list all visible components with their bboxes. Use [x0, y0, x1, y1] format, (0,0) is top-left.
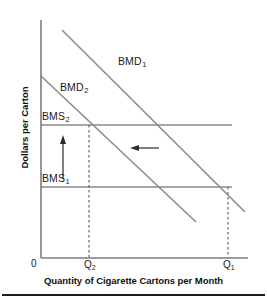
label-bms1: BMS1 [42, 172, 70, 184]
label-bmd2-sub: 2 [84, 86, 89, 95]
supply-demand-figure: BMD1 BMD2 BMS2 BMS1 Q2Q2 Q1 0 Quantity o… [0, 0, 267, 304]
x-tick-q1-text: Q [223, 259, 231, 270]
x-axis-title: Quantity of Cigarette Cartons per Month [0, 275, 267, 286]
x-tick-q2-sub: 2 [92, 264, 96, 271]
label-bmd2-text: BMD [60, 81, 84, 93]
label-bms2-text: BMS [42, 110, 65, 122]
label-bmd2: BMD2 [60, 81, 88, 93]
label-bmd1-text: BMD [118, 55, 142, 67]
label-bms2-sub: 2 [65, 115, 70, 124]
demand-curve-bmd2 [41, 76, 196, 222]
demand-shift-arrow-left [130, 145, 159, 151]
y-axis-title: Dollars per Carton [19, 58, 30, 198]
origin-label: 0 [31, 258, 37, 269]
label-bmd1-sub: 1 [142, 60, 147, 69]
label-bms1-text: BMS [42, 172, 65, 184]
label-bms2: BMS2 [42, 110, 70, 122]
x-tick-q1-sub: 1 [231, 264, 235, 271]
x-tick-q2: Q2Q2 [84, 259, 96, 270]
x-tick-q1: Q1 [223, 259, 235, 270]
x-tick-q2-text: Q [84, 259, 92, 270]
label-bms1-sub: 1 [65, 177, 70, 186]
label-bmd1: BMD1 [118, 55, 146, 67]
